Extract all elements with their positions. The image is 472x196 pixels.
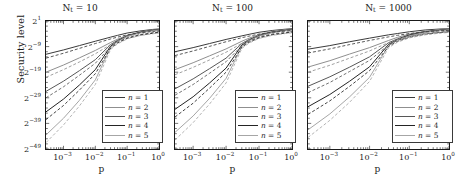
legend-swatch-icon [238, 116, 258, 117]
x-tick-label: 10−3 [309, 151, 349, 162]
y-tick-label: 2−29 [7, 92, 41, 103]
legend-item[interactable]: n = 3 [395, 112, 449, 121]
x-axis-title: p [203, 164, 263, 174]
legend-swatch-icon [105, 125, 125, 126]
legend-swatch-icon [238, 125, 258, 126]
legend-item[interactable]: n = 2 [105, 102, 159, 111]
legend-swatch-icon [395, 116, 415, 117]
legend-item[interactable]: n = 2 [238, 102, 292, 111]
legend-label: n = 4 [261, 121, 281, 130]
legend-label: n = 2 [128, 103, 148, 112]
legend-swatch-icon [238, 107, 258, 108]
legend-label: n = 5 [418, 131, 438, 140]
legend-item[interactable]: n = 1 [395, 93, 449, 102]
legend-swatch-icon [395, 125, 415, 126]
legend-label: n = 2 [418, 103, 438, 112]
legend-item[interactable]: n = 3 [238, 112, 292, 121]
panel-title-0: Nt = 10 [0, 3, 160, 14]
legend-swatch-icon [105, 135, 125, 136]
legend-label: n = 3 [128, 112, 148, 121]
y-tick-label: 2−9 [7, 41, 41, 52]
legend-item[interactable]: n = 5 [238, 131, 292, 140]
legend-item[interactable]: n = 1 [238, 93, 292, 102]
legend-2: n = 1n = 2n = 3n = 4n = 5 [392, 90, 453, 143]
legend-item[interactable]: n = 2 [395, 102, 449, 111]
legend-label: n = 1 [261, 93, 281, 102]
y-tick-label: 2−39 [7, 117, 41, 128]
y-tick-label: 2−49 [7, 143, 41, 154]
x-tick-label: 100 [428, 151, 468, 162]
x-axis-title: p [72, 164, 132, 174]
y-tick-label: 2−19 [7, 66, 41, 77]
legend-item[interactable]: n = 4 [395, 121, 449, 130]
legend-label: n = 3 [261, 112, 281, 121]
y-tick-label: 21 [7, 15, 41, 26]
x-tick-label: 10−1 [388, 151, 428, 162]
legend-1: n = 1n = 2n = 3n = 4n = 5 [235, 90, 296, 143]
series-line [46, 32, 159, 78]
legend-swatch-icon [395, 97, 415, 98]
x-tick-label: 100 [271, 151, 311, 162]
legend-item[interactable]: n = 3 [105, 112, 159, 121]
panel-title-base-2: N [365, 3, 373, 13]
legend-label: n = 3 [418, 112, 438, 121]
panel-title-2: Nt = 1000 [305, 3, 472, 14]
legend-item[interactable]: n = 1 [105, 93, 159, 102]
panel-title-1: Nt = 100 [160, 3, 305, 14]
series-line [46, 29, 159, 91]
series-line [308, 29, 449, 86]
legend-item[interactable]: n = 4 [105, 121, 159, 130]
panel-title-eq-0: = 10 [73, 3, 98, 13]
legend-swatch-icon [238, 135, 258, 136]
legend-item[interactable]: n = 5 [105, 131, 159, 140]
panel-title-eq-1: = 100 [223, 3, 253, 13]
legend-swatch-icon [395, 135, 415, 136]
legend-label: n = 4 [418, 121, 438, 130]
series-line [308, 29, 449, 67]
series-line [175, 29, 292, 88]
x-tick-label: 10−2 [349, 151, 389, 162]
legend-0: n = 1n = 2n = 3n = 4n = 5 [102, 90, 163, 143]
legend-swatch-icon [105, 97, 125, 98]
legend-label: n = 5 [128, 131, 148, 140]
legend-label: n = 1 [128, 93, 148, 102]
legend-label: n = 4 [128, 121, 148, 130]
x-axis-title: p [348, 164, 408, 174]
legend-item[interactable]: n = 5 [395, 131, 449, 140]
panel-title-eq-2: = 1000 [376, 3, 412, 13]
panel-title-base-1: N [212, 3, 220, 13]
legend-label: n = 5 [261, 131, 281, 140]
figure-root: Security level Nt = 10 Nt = 100 Nt = 100… [0, 0, 472, 196]
legend-item[interactable]: n = 4 [238, 121, 292, 130]
legend-swatch-icon [238, 97, 258, 98]
legend-label: n = 2 [261, 103, 281, 112]
legend-label: n = 1 [418, 93, 438, 102]
legend-swatch-icon [105, 107, 125, 108]
legend-swatch-icon [395, 107, 415, 108]
legend-swatch-icon [105, 116, 125, 117]
